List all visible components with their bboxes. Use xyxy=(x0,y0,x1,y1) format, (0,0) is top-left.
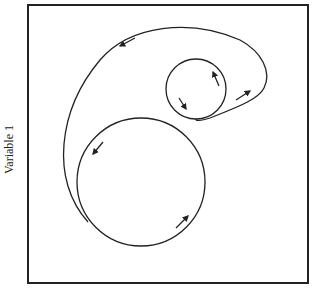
large-circle xyxy=(77,118,205,246)
arrow-small-top-icon xyxy=(213,72,219,86)
arrow-small-left-icon xyxy=(179,98,186,109)
y-axis-label: Variable 1 xyxy=(2,119,17,181)
arrow-outer-right-icon xyxy=(236,91,250,100)
arrow-large-left-icon xyxy=(93,142,103,154)
plot-frame xyxy=(28,5,308,283)
phase-diagram xyxy=(0,0,315,294)
small-circle xyxy=(166,59,226,119)
outer-loop xyxy=(64,27,267,222)
arrow-large-bottom-icon xyxy=(176,216,188,228)
